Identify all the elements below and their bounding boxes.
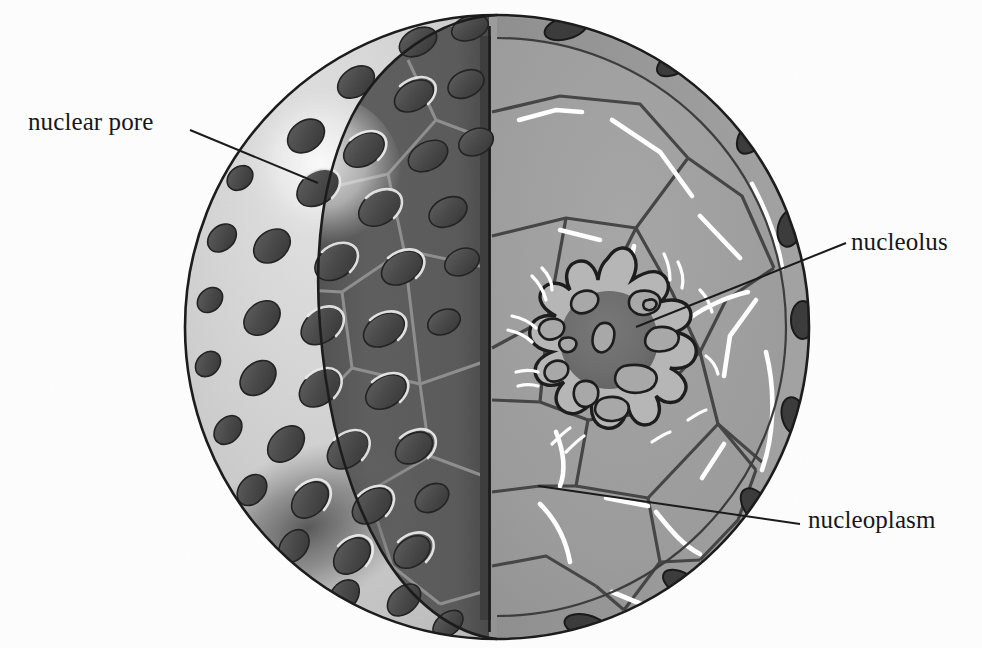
- label-nuclear-pore: nuclear pore: [28, 108, 153, 136]
- label-nucleolus: nucleolus: [851, 228, 948, 256]
- label-nucleoplasm: nucleoplasm: [808, 506, 935, 534]
- nucleus-sphere: [0, 0, 982, 648]
- nucleus-diagram: [0, 0, 982, 648]
- paper-grain: [0, 0, 982, 648]
- figure-canvas: nuclear pore nucleolus nucleoplasm: [0, 0, 982, 648]
